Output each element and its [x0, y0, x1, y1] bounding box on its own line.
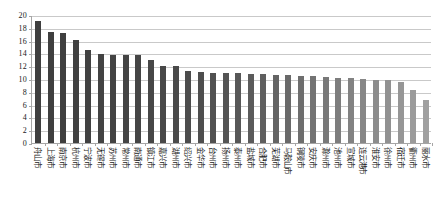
- x-tick-mark: [132, 143, 133, 146]
- bar: [398, 82, 404, 143]
- x-tick-label-text: 合肥市: [259, 147, 267, 167]
- x-tick-mark: [295, 143, 296, 146]
- x-tick-label-text: 台州市: [209, 147, 217, 167]
- y-tick-mark: [29, 144, 32, 145]
- x-tick-mark: [107, 143, 108, 146]
- x-tick-mark: [420, 143, 421, 146]
- bar: [348, 78, 354, 143]
- bar: [123, 55, 129, 143]
- x-tick-mark: [95, 143, 96, 146]
- x-tick-label-text: 衢州市: [409, 147, 417, 167]
- x-tick-label-text: 嘉兴市: [159, 147, 167, 167]
- bar: [335, 78, 341, 143]
- x-tick-mark: [432, 143, 433, 146]
- x-tick-label-text: 滁州市: [321, 147, 329, 167]
- x-tick-mark: [270, 143, 271, 146]
- x-tick-label-text: 金华市: [196, 147, 204, 167]
- bar: [173, 66, 179, 143]
- x-tick-label-text: 南通市: [134, 147, 142, 167]
- plot-area: [31, 16, 431, 144]
- x-tick-label-text: 宣城市: [346, 147, 354, 167]
- x-tick-label: 淮安市: [369, 147, 381, 202]
- bar: [310, 76, 316, 143]
- x-tick-label: 常州市: [119, 147, 131, 202]
- x-tick-mark: [195, 143, 196, 146]
- x-tick-label: 衢州市: [406, 147, 418, 202]
- x-tick-label-text: 苏州市: [109, 147, 117, 167]
- x-tick-label-text: 南京市: [59, 147, 67, 167]
- bar: [423, 100, 429, 143]
- y-tick-label: 14: [0, 50, 27, 58]
- x-tick-mark: [57, 143, 58, 146]
- x-tick-mark: [282, 143, 283, 146]
- x-tick-label-text: 铜陵市: [296, 147, 304, 167]
- x-tick-label: 盐城市: [244, 147, 256, 202]
- x-tick-mark: [170, 143, 171, 146]
- x-tick-label-text: 杭州市: [71, 147, 79, 167]
- bar: [48, 32, 54, 143]
- x-tick-label: 宣城市: [344, 147, 356, 202]
- x-tick-label: 嘉兴市: [156, 147, 168, 202]
- x-tick-mark: [232, 143, 233, 146]
- bar: [110, 55, 116, 143]
- x-tick-label: 池州市: [331, 147, 343, 202]
- x-tick-label: 铜陵市: [294, 147, 306, 202]
- x-tick-label: 泰州市: [231, 147, 243, 202]
- x-tick-mark: [220, 143, 221, 146]
- bar: [73, 40, 79, 143]
- x-tick-label: 舟山市: [31, 147, 43, 202]
- x-tick-label: 台州市: [206, 147, 218, 202]
- x-tick-mark: [120, 143, 121, 146]
- x-tick-mark: [182, 143, 183, 146]
- bar: [410, 90, 416, 143]
- bar: [298, 76, 304, 143]
- x-tick-label-text: 舟山市: [34, 147, 42, 167]
- y-tick-label: 4: [0, 114, 27, 122]
- x-tick-mark: [382, 143, 383, 146]
- bar-chart: 20181614121086420 舟山市上海市南京市杭州市宁波市无锡市苏州市常…: [0, 0, 437, 202]
- y-tick-label: 6: [0, 102, 27, 110]
- bar: [323, 77, 329, 143]
- bar: [135, 55, 141, 143]
- x-tick-label: 宁波市: [81, 147, 93, 202]
- x-tick-label: 湖州市: [169, 147, 181, 202]
- bar: [60, 33, 66, 143]
- x-tick-mark: [207, 143, 208, 146]
- x-tick-label-text: 扬州市: [221, 147, 229, 167]
- x-tick-label: 丽水市: [419, 147, 431, 202]
- y-tick-label: 2: [0, 127, 27, 135]
- x-tick-label-text: 淮安市: [371, 147, 379, 167]
- y-axis: 20181614121086420: [0, 16, 27, 144]
- x-tick-label: 上海市: [44, 147, 56, 202]
- bar: [85, 50, 91, 143]
- bar: [148, 60, 154, 143]
- x-tick-label: 金华市: [194, 147, 206, 202]
- x-tick-label: 宿迁市: [394, 147, 406, 202]
- y-tick-label: 0: [0, 140, 27, 148]
- x-tick-mark: [245, 143, 246, 146]
- x-tick-label: 南通市: [131, 147, 143, 202]
- x-tick-label-text: 宿迁市: [396, 147, 404, 167]
- bar: [185, 71, 191, 143]
- x-tick-mark: [307, 143, 308, 146]
- bar: [210, 73, 216, 143]
- x-tick-label: 滁州市: [319, 147, 331, 202]
- x-tick-label: 扬州市: [219, 147, 231, 202]
- bar: [273, 75, 279, 143]
- x-tick-label: 镇江市: [144, 147, 156, 202]
- bar: [385, 80, 391, 143]
- bars-layer: [32, 16, 431, 143]
- x-tick-mark: [332, 143, 333, 146]
- bar: [260, 74, 266, 143]
- x-tick-label: 杭州市: [69, 147, 81, 202]
- x-tick-label: 徐州市: [381, 147, 393, 202]
- x-tick-mark: [145, 143, 146, 146]
- x-tick-mark: [82, 143, 83, 146]
- x-tick-label: 马鞍山市: [281, 147, 293, 202]
- y-tick-label: 18: [0, 25, 27, 33]
- x-tick-mark: [257, 143, 258, 146]
- x-axis-labels: 舟山市上海市南京市杭州市宁波市无锡市苏州市常州市南通市镇江市嘉兴市湖州市绍兴市金…: [31, 147, 431, 202]
- x-tick-label: 南京市: [56, 147, 68, 202]
- x-tick-label: 苏州市: [106, 147, 118, 202]
- bar: [160, 66, 166, 143]
